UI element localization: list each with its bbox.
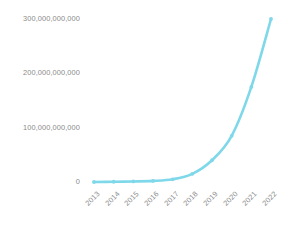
x-axis: 2013201420152016201720182019202020212022	[0, 0, 294, 226]
x-tick-label: 2019	[196, 190, 220, 214]
x-tick-label: 2013	[78, 190, 102, 214]
x-tick-label: 2016	[137, 190, 161, 214]
x-tick-label: 2022	[255, 190, 279, 214]
line-chart: 0100,000,000,000200,000,000,000300,000,0…	[0, 0, 294, 226]
